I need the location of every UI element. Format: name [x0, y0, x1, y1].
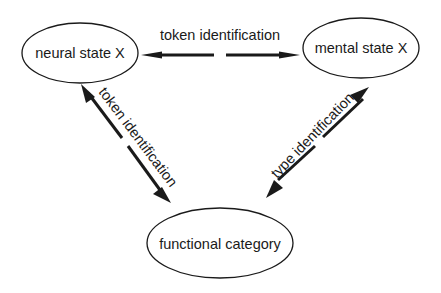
arrowhead-right-icon: [279, 52, 300, 59]
arrowhead-down-left-icon: [266, 180, 283, 198]
identity-theory-diagram: neural state X mental state X functional…: [0, 0, 441, 293]
edge-neural-functional-label: token identification: [96, 84, 181, 190]
node-functional-category: functional category: [147, 208, 293, 278]
node-functional-category-label: functional category: [159, 236, 281, 252]
edge-mental-functional-label: type identification: [268, 89, 357, 181]
arrowhead-left-icon: [141, 52, 162, 59]
edge-neural-mental-label: token identification: [160, 27, 280, 43]
edge-neural-functional: token identification: [81, 84, 181, 203]
edge-mental-functional: type identification: [266, 87, 369, 198]
node-neural-state: neural state X: [22, 23, 138, 83]
node-neural-state-label: neural state X: [35, 45, 125, 61]
node-mental-state-label: mental state X: [315, 40, 408, 56]
edge-neural-mental: token identification: [141, 27, 300, 59]
node-mental-state: mental state X: [303, 18, 419, 78]
